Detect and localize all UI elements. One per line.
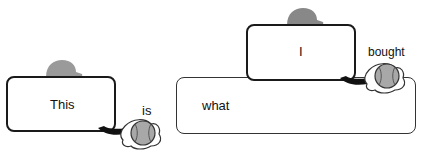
glove-baseball-icon bbox=[119, 116, 163, 152]
word-what: what bbox=[202, 98, 229, 113]
word-bought: bought bbox=[368, 45, 405, 59]
subject-box-this: This bbox=[6, 76, 116, 132]
subject-box-i: I bbox=[246, 24, 356, 81]
word-this: This bbox=[50, 97, 75, 112]
word-i: I bbox=[299, 44, 303, 59]
glove-baseball-icon bbox=[363, 60, 407, 96]
